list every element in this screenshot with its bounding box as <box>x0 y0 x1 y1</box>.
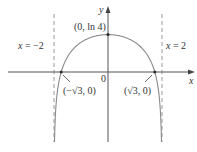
right-asymptote-label: x = 2 <box>166 41 186 51</box>
graph-figure: y x 0 (0, ln 4) x = −2 x = 2 (−√3, 0) (√… <box>0 0 197 152</box>
y-axis-arrow-icon <box>106 6 111 13</box>
left-root-label: (−√3, 0) <box>63 86 96 96</box>
left-root-pointer <box>63 75 70 82</box>
right-root-label: (√3, 0) <box>124 86 151 96</box>
left-root-point <box>60 70 63 73</box>
y-axis-label: y <box>99 5 103 15</box>
x-axis-label: x <box>189 76 193 86</box>
left-asymptote-value: = −2 <box>22 40 43 51</box>
left-asymptote-label: x = −2 <box>18 41 44 51</box>
peak-label: (0, ln 4) <box>74 22 106 32</box>
origin-label: 0 <box>101 74 106 84</box>
right-root-point <box>153 70 156 73</box>
right-root-pointer <box>145 75 152 82</box>
peak-point <box>106 33 109 36</box>
right-asymptote-value: = 2 <box>170 40 186 51</box>
x-axis-arrow-icon <box>188 70 195 75</box>
